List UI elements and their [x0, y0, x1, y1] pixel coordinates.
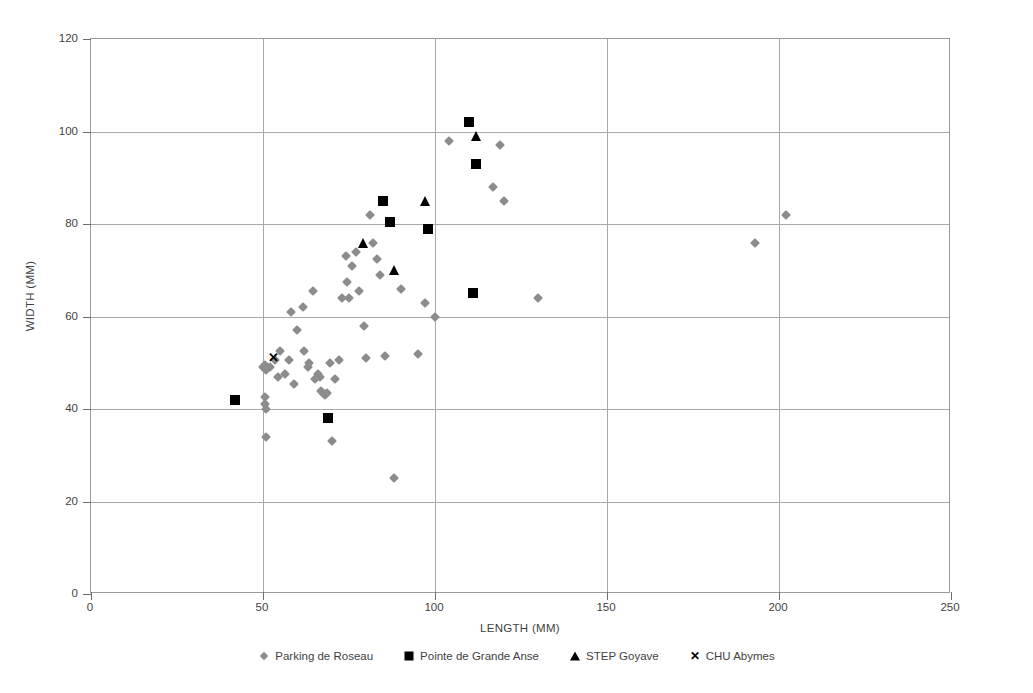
data-point-triangle — [471, 131, 481, 141]
data-point-diamond — [337, 293, 347, 303]
data-point-diamond — [320, 390, 330, 400]
data-point-diamond — [380, 351, 390, 361]
legend-item-label: STEP Goyave — [586, 650, 659, 662]
data-point-cross: ✕ — [267, 352, 279, 364]
gridline-vertical — [263, 39, 264, 592]
data-point-diamond — [260, 392, 270, 402]
data-point-diamond — [396, 284, 406, 294]
data-point-square — [378, 196, 388, 206]
data-point-diamond — [375, 270, 385, 280]
plot-area: ✕ — [90, 38, 950, 593]
gridline-vertical — [435, 39, 436, 592]
data-point-diamond — [365, 210, 375, 220]
gridline-horizontal — [91, 409, 949, 410]
data-point-diamond — [327, 436, 337, 446]
data-point-diamond — [341, 251, 351, 261]
y-axis-tick — [83, 224, 91, 225]
y-axis-tick-label: 20 — [65, 495, 78, 507]
x-axis-tick-label: 50 — [256, 601, 269, 613]
y-axis-title: WIDTH (MM) — [24, 236, 36, 356]
data-point-diamond — [325, 358, 335, 368]
gridline-horizontal — [91, 502, 949, 503]
data-point-diamond — [444, 136, 454, 146]
gridline-horizontal — [91, 132, 949, 133]
data-point-diamond — [274, 372, 284, 382]
x-axis-tick-labels: 050100150200250 — [90, 601, 950, 621]
data-point-diamond — [303, 362, 313, 372]
data-point-diamond — [260, 360, 270, 370]
diamond-icon — [258, 650, 270, 662]
y-axis-tick — [83, 39, 91, 40]
data-point-diamond — [342, 277, 352, 287]
legend-item-label: Pointe de Grande Anse — [420, 650, 539, 662]
x-axis-tick-label: 200 — [768, 601, 787, 613]
data-point-diamond — [292, 325, 302, 335]
data-point-diamond — [533, 293, 543, 303]
y-axis-tick — [83, 409, 91, 410]
legend-item-1[interactable]: Pointe de Grande Anse — [403, 650, 539, 662]
data-point-diamond — [413, 349, 423, 359]
data-point-diamond — [313, 369, 323, 379]
data-point-diamond — [322, 388, 332, 398]
data-point-square — [230, 395, 240, 405]
data-point-diamond — [318, 388, 328, 398]
data-point-square — [323, 413, 333, 423]
data-point-diamond — [270, 355, 280, 365]
y-axis-tick — [83, 132, 91, 133]
data-point-diamond — [344, 293, 354, 303]
data-point-square — [385, 217, 395, 227]
data-point-diamond — [265, 362, 275, 372]
data-point-diamond — [347, 261, 357, 271]
gridline-horizontal — [91, 224, 949, 225]
data-point-diamond — [286, 307, 296, 317]
data-point-square — [471, 159, 481, 169]
data-point-triangle — [358, 238, 368, 248]
data-point-diamond — [280, 369, 290, 379]
x-axis-tick — [91, 592, 92, 600]
data-point-diamond — [315, 372, 325, 382]
triangle-icon — [569, 650, 581, 662]
x-axis-tick — [435, 592, 436, 600]
data-point-diamond — [781, 210, 791, 220]
data-point-diamond — [495, 140, 505, 150]
data-point-diamond — [420, 298, 430, 308]
x-axis-tick-label: 0 — [87, 601, 93, 613]
x-axis-title: LENGTH (MM) — [90, 622, 950, 634]
y-axis-tick-label: 40 — [65, 402, 78, 414]
scatter-chart: ✕ 020406080100120 050100150200250 LENGTH… — [0, 0, 1033, 693]
data-point-diamond — [299, 346, 309, 356]
data-point-triangle — [389, 265, 399, 275]
y-axis-tick — [83, 594, 91, 595]
gridline-vertical — [607, 39, 608, 592]
y-axis-tick-label: 100 — [59, 125, 78, 137]
data-point-diamond — [298, 302, 308, 312]
y-axis-tick-label: 0 — [72, 587, 78, 599]
gridline-horizontal — [91, 317, 949, 318]
data-point-diamond — [317, 386, 327, 396]
y-axis-tick-label: 60 — [65, 310, 78, 322]
x-axis-tick — [779, 592, 780, 600]
data-point-square — [423, 224, 433, 234]
cross-icon: ✕ — [689, 650, 701, 662]
x-axis-tick — [951, 592, 952, 600]
data-point-diamond — [389, 473, 399, 483]
x-axis-tick-label: 250 — [940, 601, 959, 613]
x-axis-tick — [263, 592, 264, 600]
data-point-diamond — [354, 286, 364, 296]
data-point-diamond — [275, 346, 285, 356]
legend-item-label: Parking de Roseau — [275, 650, 373, 662]
data-point-diamond — [284, 355, 294, 365]
data-point-diamond — [489, 182, 499, 192]
square-icon — [403, 650, 415, 662]
data-point-square — [468, 288, 478, 298]
data-point-diamond — [310, 374, 320, 384]
x-axis-tick-label: 150 — [596, 601, 615, 613]
legend-item-0[interactable]: Parking de Roseau — [258, 650, 373, 662]
legend-item-3[interactable]: ✕CHU Abymes — [689, 650, 775, 662]
data-point-diamond — [368, 238, 378, 248]
legend-item-2[interactable]: STEP Goyave — [569, 650, 659, 662]
data-point-diamond — [304, 358, 314, 368]
data-point-triangle — [420, 196, 430, 206]
data-point-diamond — [308, 286, 318, 296]
data-point-diamond — [330, 374, 340, 384]
